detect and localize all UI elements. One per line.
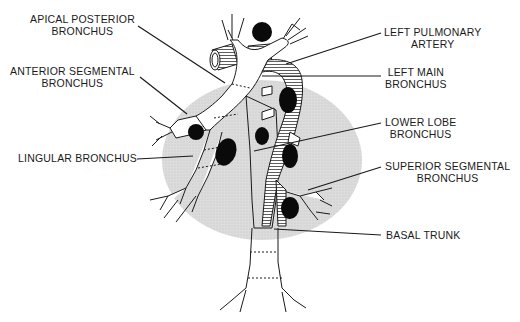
lymph-node <box>281 197 299 219</box>
label-line-1: LEFT MAIN <box>385 67 447 79</box>
label-superior-segmental-bronchus: SUPERIOR SEGMENTAL BRONCHUS <box>385 161 510 184</box>
label-anterior-segmental-bronchus: ANTERIOR SEGMENTAL BRONCHUS <box>10 66 135 89</box>
label-line-2: BRONCHUS <box>385 173 510 185</box>
lymph-node <box>282 144 298 168</box>
label-left-main-bronchus: LEFT MAIN BRONCHUS <box>385 67 447 90</box>
lymph-node <box>252 22 272 42</box>
lymph-node <box>255 127 269 145</box>
label-lower-lobe-bronchus: LOWER LOBE BRONCHUS <box>385 117 456 140</box>
label-line-1: SUPERIOR SEGMENTAL <box>385 161 510 173</box>
label-line-1: LOWER LOBE <box>385 117 456 129</box>
lymph-node <box>188 124 204 140</box>
bronchial-tree-diagram: APICAL POSTERIOR BRONCHUS ANTERIOR SEGME… <box>0 0 520 322</box>
label-line-1: LEFT PULMONARY <box>384 27 482 39</box>
label-apical-posterior-bronchus: APICAL POSTERIOR BRONCHUS <box>30 14 135 37</box>
label-line-1: LINGULAR BRONCHUS <box>18 153 137 165</box>
label-line-2: BRONCHUS <box>30 26 135 38</box>
label-line-2: BRONCHUS <box>385 79 447 91</box>
label-line-2: BRONCHUS <box>10 78 135 90</box>
label-basal-trunk: BASAL TRUNK <box>386 230 461 242</box>
label-line-2: BRONCHUS <box>385 129 456 141</box>
label-line-1: ANTERIOR SEGMENTAL <box>10 66 135 78</box>
label-left-pulmonary-artery: LEFT PULMONARY ARTERY <box>384 27 482 50</box>
leader-left-pulmonary-artery <box>286 33 381 64</box>
label-line-1: BASAL TRUNK <box>386 230 461 242</box>
label-lingular-bronchus: LINGULAR BRONCHUS <box>18 153 137 165</box>
label-line-2: ARTERY <box>384 39 482 51</box>
label-line-1: APICAL POSTERIOR <box>30 14 135 26</box>
lymph-node <box>279 87 297 113</box>
leader-anterior-segmental <box>140 77 187 114</box>
